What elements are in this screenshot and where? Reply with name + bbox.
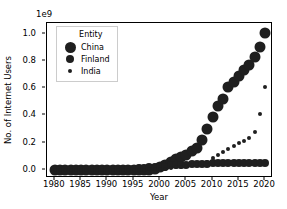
legend-title: Entity bbox=[72, 30, 110, 39]
data-point bbox=[242, 139, 246, 143]
data-point bbox=[53, 168, 57, 172]
data-point bbox=[137, 168, 141, 172]
data-point bbox=[132, 168, 136, 172]
legend-entries: ChinaFinlandIndia bbox=[62, 41, 110, 77]
data-point bbox=[169, 166, 173, 170]
legend-marker-icon bbox=[62, 69, 78, 73]
x-tick-label: 2010 bbox=[201, 179, 223, 189]
legend-item-label: India bbox=[81, 67, 101, 76]
x-tick-label: 2015 bbox=[227, 179, 249, 189]
data-point bbox=[221, 150, 225, 154]
y-axis-tick-marks bbox=[0, 22, 46, 177]
data-point bbox=[84, 168, 88, 172]
data-point bbox=[195, 162, 199, 166]
data-point bbox=[147, 167, 151, 171]
data-point bbox=[211, 156, 215, 160]
data-point bbox=[158, 167, 162, 171]
data-point bbox=[111, 168, 115, 172]
y-axis-offset-text: 1e9 bbox=[36, 9, 52, 19]
legend-item-label: China bbox=[81, 43, 104, 52]
data-point bbox=[174, 165, 178, 169]
legend-marker-icon bbox=[62, 55, 78, 63]
data-point bbox=[207, 111, 218, 122]
data-point bbox=[126, 168, 130, 172]
data-point bbox=[163, 167, 167, 171]
data-point bbox=[202, 123, 213, 134]
data-point bbox=[184, 164, 188, 168]
data-point bbox=[105, 168, 109, 172]
data-point bbox=[100, 168, 104, 172]
data-point bbox=[205, 160, 209, 164]
legend-item-label: Finland bbox=[81, 55, 110, 64]
x-tick-label: 2020 bbox=[253, 179, 275, 189]
data-point bbox=[74, 168, 78, 172]
data-point bbox=[232, 144, 236, 148]
data-point bbox=[200, 161, 204, 165]
x-axis-tick-labels: 198019851990199520002005201020152020 bbox=[46, 179, 272, 193]
legend-item: China bbox=[62, 41, 110, 53]
y-tick-mark bbox=[42, 141, 45, 142]
data-point bbox=[226, 147, 230, 151]
y-tick-mark bbox=[42, 168, 45, 169]
data-point bbox=[153, 167, 157, 171]
x-axis-label: Year bbox=[46, 192, 272, 202]
data-point bbox=[90, 168, 94, 172]
data-point bbox=[63, 168, 67, 172]
data-point bbox=[253, 130, 257, 134]
data-point bbox=[237, 141, 241, 145]
y-tick-mark bbox=[42, 87, 45, 88]
data-point bbox=[69, 168, 73, 172]
data-point bbox=[116, 168, 120, 172]
data-point bbox=[190, 163, 194, 167]
data-point bbox=[218, 93, 229, 104]
data-point bbox=[216, 153, 220, 157]
x-tick-label: 1990 bbox=[96, 179, 118, 189]
data-point bbox=[260, 27, 271, 38]
data-point bbox=[258, 112, 262, 116]
data-point bbox=[254, 41, 265, 52]
data-point bbox=[261, 159, 269, 167]
x-tick-label: 1995 bbox=[122, 179, 144, 189]
x-tick-label: 1985 bbox=[69, 179, 91, 189]
data-point bbox=[142, 168, 146, 172]
y-tick-mark bbox=[42, 60, 45, 61]
scatter-chart-figure: 1e9 No. of Internet Users 0.00.20.40.60.… bbox=[0, 0, 287, 209]
data-point bbox=[179, 165, 183, 169]
x-tick-label: 2005 bbox=[174, 179, 196, 189]
data-point bbox=[197, 135, 208, 146]
x-tick-label: 1980 bbox=[43, 179, 65, 189]
legend-item: India bbox=[62, 65, 110, 77]
data-point bbox=[263, 85, 267, 89]
data-point bbox=[79, 168, 83, 172]
x-tick-label: 2000 bbox=[148, 179, 170, 189]
y-tick-mark bbox=[42, 114, 45, 115]
y-tick-mark bbox=[42, 32, 45, 33]
data-point bbox=[249, 52, 260, 63]
data-point bbox=[121, 168, 125, 172]
legend-item: Finland bbox=[62, 53, 110, 65]
legend-marker-icon bbox=[62, 42, 78, 53]
data-point bbox=[58, 168, 62, 172]
data-point bbox=[247, 136, 251, 140]
data-point bbox=[95, 168, 99, 172]
legend: Entity ChinaFinlandIndia bbox=[56, 26, 118, 82]
